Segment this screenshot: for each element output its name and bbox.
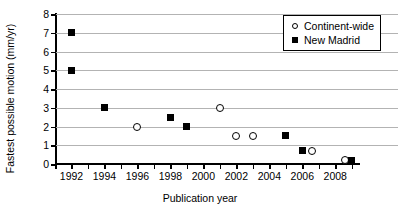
scatter-chart: Fastest possible motion (mm/yr) Publicat… <box>0 0 405 217</box>
data-point-marker <box>308 147 316 155</box>
x-tick-mark <box>104 164 106 169</box>
data-point-marker <box>232 132 240 140</box>
x-tick-mark <box>302 164 304 169</box>
data-point-marker <box>299 147 306 154</box>
gridline <box>56 70 398 71</box>
gridline <box>56 89 398 90</box>
legend-item: New Madrid <box>289 33 374 47</box>
x-tick-mark <box>121 164 123 169</box>
y-tick-label: 7 <box>36 28 49 38</box>
y-tick-label: 2 <box>36 122 49 132</box>
x-tick-mark <box>154 164 156 169</box>
legend: Continent-wideNew Madrid <box>283 15 381 51</box>
x-tick-mark <box>71 164 73 169</box>
data-point-marker <box>183 123 190 130</box>
y-tick-label: 0 <box>36 159 49 169</box>
x-axis-title: Publication year <box>45 192 355 204</box>
legend-item-label: Continent-wide <box>304 20 374 32</box>
legend-marker-shape <box>292 37 298 43</box>
x-tick-label: 2008 <box>315 171 355 182</box>
y-tick-label: 5 <box>36 65 49 75</box>
x-tick-mark <box>88 164 90 169</box>
gridline <box>56 127 398 128</box>
gridline <box>56 52 398 53</box>
x-tick-mark <box>335 164 337 169</box>
legend-item: Continent-wide <box>289 19 374 33</box>
data-point-marker <box>348 157 355 164</box>
x-tick-mark <box>319 164 321 169</box>
x-tick-mark <box>203 164 205 169</box>
x-tick-mark <box>269 164 271 169</box>
legend-item-label: New Madrid <box>304 34 360 46</box>
x-tick-mark <box>253 164 255 169</box>
legend-marker-shape <box>292 23 298 29</box>
x-tick-mark <box>236 164 238 169</box>
x-tick-mark <box>220 164 222 169</box>
data-point-marker <box>68 67 75 74</box>
open-circle-icon <box>289 23 301 29</box>
y-tick-label: 3 <box>36 103 49 113</box>
y-tick-label: 8 <box>36 9 49 19</box>
y-tick-label: 4 <box>36 84 49 94</box>
data-point-marker <box>133 123 141 131</box>
y-tick-label: 6 <box>36 47 49 57</box>
data-point-marker <box>68 29 75 36</box>
x-tick-mark <box>55 164 57 169</box>
gridline <box>56 145 398 146</box>
y-tick-label: 1 <box>36 140 49 150</box>
data-point-marker <box>249 132 257 140</box>
x-tick-mark <box>286 164 288 169</box>
data-point-marker <box>216 104 224 112</box>
x-tick-mark <box>170 164 172 169</box>
x-tick-mark <box>352 164 354 169</box>
y-axis-title: Fastest possible motion (mm/yr) <box>2 11 18 186</box>
data-point-marker <box>101 104 108 111</box>
x-tick-mark <box>137 164 139 169</box>
data-point-marker <box>282 132 289 139</box>
data-point-marker <box>167 114 174 121</box>
filled-square-icon <box>289 37 301 43</box>
x-tick-mark <box>187 164 189 169</box>
